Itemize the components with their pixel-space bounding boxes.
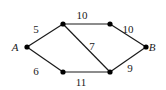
edge-TL-BR (63, 24, 110, 72)
node-TR (107, 21, 112, 26)
node-label-A: A (11, 41, 19, 53)
node-TL (60, 21, 65, 26)
graph-svg: 5610710119AB (0, 0, 166, 90)
edge-weight-label: 6 (33, 65, 39, 77)
node-BL (60, 69, 65, 74)
node-A (24, 44, 29, 49)
edge-weight-label: 7 (89, 40, 95, 52)
edge-weight-label: 10 (123, 23, 135, 35)
node-label-B: B (149, 41, 156, 53)
edge-weight-label: 5 (33, 23, 39, 35)
weighted-graph-diagram: 5610710119AB (0, 0, 166, 90)
edge-weight-label: 9 (127, 62, 133, 74)
node-BR (107, 69, 112, 74)
edge-weight-label: 11 (76, 76, 87, 88)
edge-weight-label: 10 (77, 9, 89, 21)
